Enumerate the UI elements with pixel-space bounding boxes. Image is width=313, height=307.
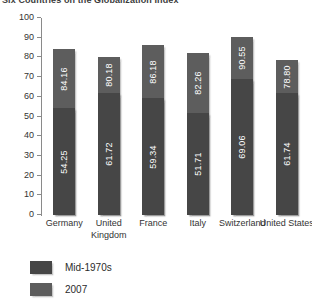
y-axis-tick-mark xyxy=(37,96,41,97)
bar-segment-mid-1970s[interactable]: 61.72 xyxy=(98,93,120,215)
bar-value-label-mid-1970s: 54.25 xyxy=(59,150,69,174)
y-axis-tick-mark xyxy=(37,194,41,195)
bar-value-label-mid-1970s: 69.06 xyxy=(237,135,247,159)
legend-swatch-mid-1970s xyxy=(30,261,52,274)
bar-segment-mid-1970s[interactable]: 51.71 xyxy=(187,113,209,215)
y-axis-tick-label: 60 xyxy=(24,91,34,102)
y-axis-tick-mark xyxy=(37,214,41,215)
y-axis-tick-mark xyxy=(37,155,41,156)
bar-value-label-2007: 80.18 xyxy=(104,63,114,87)
y-axis-tick-label: 30 xyxy=(24,150,34,161)
chart-legend: Mid-1970s 2007 xyxy=(30,256,112,300)
y-axis-tick-mark xyxy=(37,17,41,18)
legend-label-mid-1970s: Mid-1970s xyxy=(65,262,112,273)
bar-group[interactable]: 82.2651.71 xyxy=(187,18,209,215)
x-axis-label: United States xyxy=(259,218,313,230)
y-axis-tick-label: 100 xyxy=(19,12,34,23)
legend-label-2007: 2007 xyxy=(65,284,87,295)
y-axis-tick-mark xyxy=(37,76,41,77)
bar-value-label-2007: 90.55 xyxy=(237,46,247,70)
bar-segment-mid-1970s[interactable]: 54.25 xyxy=(53,108,75,215)
legend-item-2007: 2007 xyxy=(30,278,112,300)
bar-group[interactable]: 84.1654.25 xyxy=(53,18,75,215)
bar-segment-mid-1970s[interactable]: 61.74 xyxy=(276,93,298,215)
bar-group[interactable]: 78.8061.74 xyxy=(276,18,298,215)
y-axis-tick-label: 10 xyxy=(24,189,34,200)
bar-value-label-2007: 84.16 xyxy=(59,67,69,91)
y-axis-tick-label: 0 xyxy=(29,209,34,220)
y-axis-tick-label: 50 xyxy=(24,111,34,122)
y-axis-tick-mark xyxy=(37,37,41,38)
y-axis-tick-label: 90 xyxy=(24,32,34,43)
y-axis-tick-mark xyxy=(37,175,41,176)
bar-value-label-mid-1970s: 51.71 xyxy=(193,152,203,176)
y-axis-tick-mark xyxy=(37,135,41,136)
globalization-index-bar-chart: Six Countries on the Globalization Index… xyxy=(0,0,312,307)
y-axis-tick-mark xyxy=(37,56,41,57)
bar-group[interactable]: 86.1859.34 xyxy=(142,18,164,215)
chart-title: Six Countries on the Globalization Index xyxy=(2,0,302,5)
bar-value-label-mid-1970s: 59.34 xyxy=(148,145,158,169)
bar-value-label-mid-1970s: 61.72 xyxy=(104,142,114,166)
bar-group[interactable]: 90.5569.06 xyxy=(231,18,253,215)
bar-value-label-2007: 82.26 xyxy=(193,71,203,95)
x-axis-labels: GermanyUnited KingdomFranceItalySwitzerl… xyxy=(42,218,309,252)
bar-value-label-2007: 86.18 xyxy=(148,60,158,84)
y-axis-tick-mark xyxy=(37,116,41,117)
y-axis-tick-label: 80 xyxy=(24,51,34,62)
y-axis-tick-label: 70 xyxy=(24,71,34,82)
y-axis-tick-label: 20 xyxy=(24,170,34,181)
bar-segment-mid-1970s[interactable]: 59.34 xyxy=(142,98,164,215)
legend-item-mid-1970s: Mid-1970s xyxy=(30,256,112,278)
bars-layer: 84.1654.2580.1861.7286.1859.3482.2651.71… xyxy=(42,18,309,215)
legend-swatch-2007 xyxy=(30,283,52,296)
y-axis-tick-label: 40 xyxy=(24,130,34,141)
bar-value-label-2007: 78.80 xyxy=(282,65,292,89)
bar-segment-mid-1970s[interactable]: 69.06 xyxy=(231,79,253,215)
bar-group[interactable]: 80.1861.72 xyxy=(98,18,120,215)
bar-value-label-mid-1970s: 61.74 xyxy=(282,142,292,166)
